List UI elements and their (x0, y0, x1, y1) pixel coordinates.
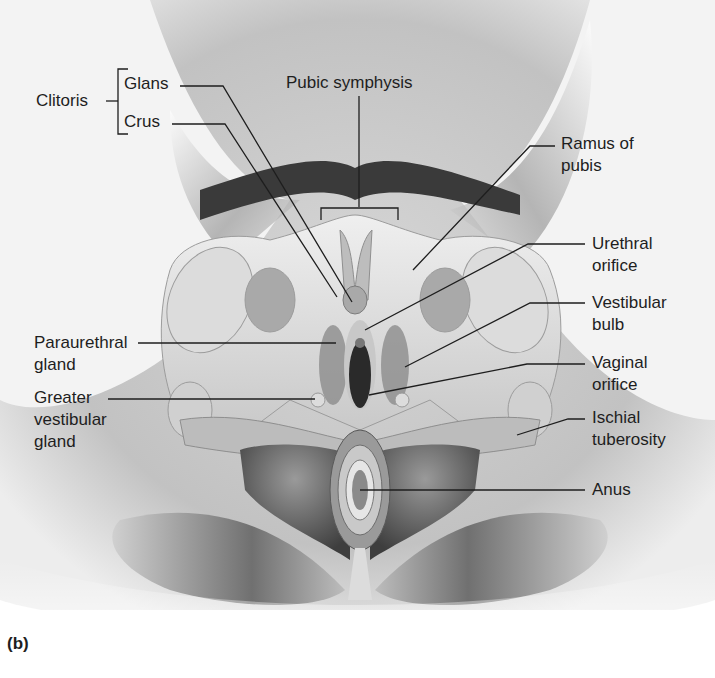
label-ischial-tuberosity-line1: Ischial (592, 408, 640, 428)
panel-label: (b) (7, 634, 29, 654)
label-ramus-of-pubis-line2: pubis (561, 156, 602, 176)
label-crus: Crus (124, 112, 160, 132)
label-vestibular-bulb-line1: Vestibular (592, 293, 667, 313)
label-clitoris: Clitoris (36, 91, 88, 111)
label-paraurethral-gland-line1: Paraurethral (34, 333, 128, 353)
label-pubic-symphysis: Pubic symphysis (286, 73, 413, 93)
label-anus: Anus (592, 480, 631, 500)
label-paraurethral-gland-line2: gland (34, 355, 76, 375)
label-vestibular-bulb-line2: bulb (592, 315, 624, 335)
label-vaginal-orifice-line1: Vaginal (592, 353, 647, 373)
label-glans: Glans (124, 74, 168, 94)
label-urethral-orifice-line2: orifice (592, 256, 637, 276)
label-urethral-orifice-line1: Urethral (592, 234, 652, 254)
label-greater-vestibular-gland-line2: vestibular (34, 410, 107, 430)
label-vaginal-orifice-line2: orifice (592, 375, 637, 395)
label-ramus-of-pubis-line1: Ramus of (561, 134, 634, 154)
label-greater-vestibular-gland-line3: gland (34, 432, 76, 452)
anatomy-figure: Clitoris Glans Crus Pubic symphysis Ramu… (0, 0, 715, 678)
label-ischial-tuberosity-line2: tuberosity (592, 430, 666, 450)
label-greater-vestibular-gland-line1: Greater (34, 388, 92, 408)
